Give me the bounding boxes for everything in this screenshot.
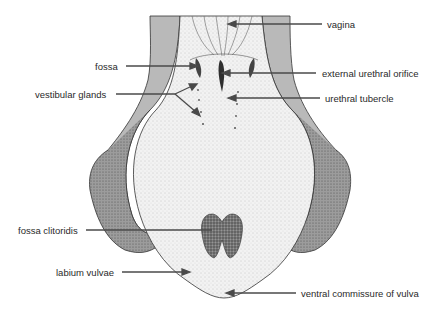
label-vagina: vagina	[327, 19, 355, 30]
label-fossa: fossa	[95, 61, 118, 72]
label-vestibular-glands: vestibular glands	[35, 89, 106, 100]
label-fossa-clitoridis: fossa clitoridis	[18, 225, 78, 236]
label-ventral-commissure-of-vulva: ventral commissure of vulva	[301, 288, 419, 299]
label-labium-vulvae: labium vulvae	[56, 267, 114, 278]
label-external-urethral-orifice: external urethral orifice	[322, 68, 419, 79]
anatomical-diagram: vagina fossa external urethral orifice v…	[0, 0, 448, 319]
label-urethral-tubercle: urethral tubercle	[325, 93, 394, 104]
